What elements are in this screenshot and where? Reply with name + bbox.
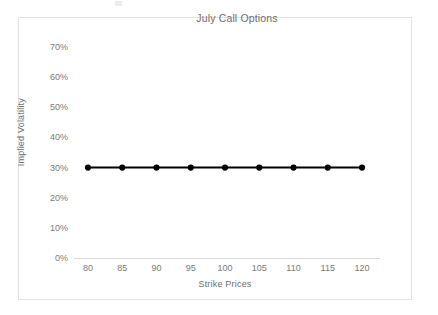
series-marker (325, 164, 331, 170)
series-marker (188, 164, 194, 170)
series-marker (359, 164, 365, 170)
series-marker (119, 164, 125, 170)
series-marker (256, 164, 262, 170)
series-plot (0, 0, 438, 315)
series-marker (153, 164, 159, 170)
series-marker (290, 164, 296, 170)
series-marker (85, 164, 91, 170)
series-marker (222, 164, 228, 170)
